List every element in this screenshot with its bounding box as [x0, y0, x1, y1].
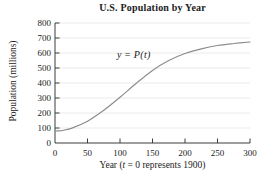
x-tick-label: 100 — [113, 148, 127, 158]
x-tick-label: 200 — [178, 148, 192, 158]
x-axis-title-post: = 0 represents 1900) — [125, 160, 205, 170]
y-tick-label: 100 — [38, 123, 52, 133]
x-tick-label: 250 — [211, 148, 225, 158]
x-tick-label: 150 — [146, 148, 160, 158]
y-tick-label: 500 — [38, 63, 52, 73]
curve-equation-label: y = P(t) — [117, 49, 151, 60]
population-figure: 0100200300400500600700800050100150200250… — [0, 0, 260, 186]
x-tick-label: 300 — [243, 148, 257, 158]
y-tick-label: 300 — [38, 93, 52, 103]
y-tick-label: 0 — [47, 138, 52, 148]
population-curve — [55, 42, 250, 131]
curve-label-equals: = — [122, 49, 134, 60]
y-axis-title: Population (millions) — [8, 21, 18, 141]
curve-label-rhs: P(t) — [134, 49, 151, 60]
y-tick-label: 200 — [38, 108, 52, 118]
x-axis-title-pre: Year ( — [100, 160, 123, 170]
x-tick-label: 50 — [83, 148, 93, 158]
y-tick-label: 800 — [38, 18, 52, 28]
y-tick-label: 400 — [38, 78, 52, 88]
x-axis-title: Year (t = 0 represents 1900) — [55, 160, 250, 170]
plot-svg: 0100200300400500600700800050100150200250… — [0, 0, 260, 186]
x-tick-label: 0 — [53, 148, 58, 158]
chart-title: U.S. Population by Year — [55, 2, 250, 13]
y-tick-label: 700 — [38, 33, 52, 43]
y-tick-label: 600 — [38, 48, 52, 58]
